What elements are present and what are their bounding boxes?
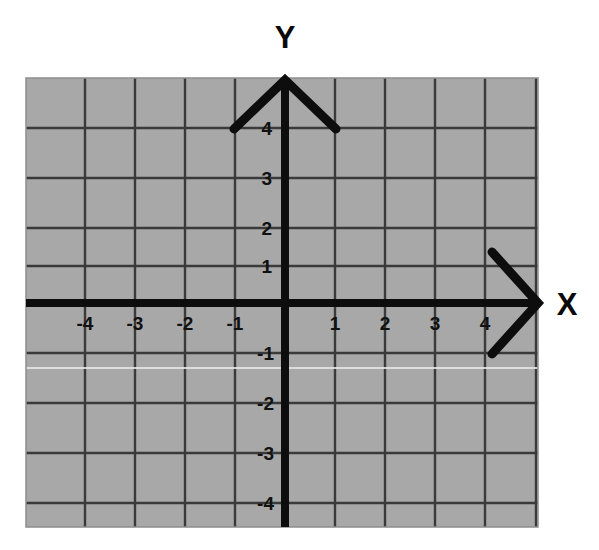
x-axis-label: X <box>557 287 578 322</box>
y-axis-label: Y <box>275 20 296 55</box>
y-tick-label--4: -4 <box>257 493 274 514</box>
graph-screenshot: -4 -3 -2 -1 1 2 3 4 4 3 2 1 -1 -2 -3 -4 … <box>0 0 599 550</box>
x-tick-label-2: 2 <box>380 313 391 334</box>
x-tick-label-1: 1 <box>330 313 341 334</box>
x-tick-label--4: -4 <box>77 313 94 334</box>
x-tick-label--1: -1 <box>227 313 244 334</box>
y-tick-label-3: 3 <box>261 168 272 189</box>
x-tick-label-4: 4 <box>480 313 491 334</box>
y-tick-label-1: 1 <box>261 256 272 277</box>
x-tick-label--3: -3 <box>127 313 144 334</box>
coordinate-plane-figure: -4 -3 -2 -1 1 2 3 4 4 3 2 1 -1 -2 -3 -4 … <box>0 0 599 550</box>
y-tick-label-4: 4 <box>261 118 272 139</box>
x-tick-label--2: -2 <box>177 313 194 334</box>
y-tick-label--2: -2 <box>257 393 274 414</box>
y-tick-label-2: 2 <box>261 218 272 239</box>
y-tick-label--1: -1 <box>257 343 274 364</box>
x-tick-label-3: 3 <box>430 313 441 334</box>
y-tick-label--3: -3 <box>257 443 274 464</box>
